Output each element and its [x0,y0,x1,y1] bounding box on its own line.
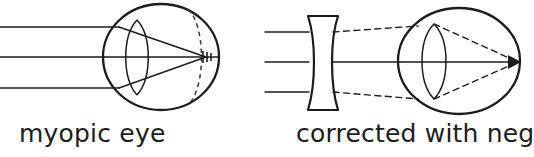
left-refracted-bottom [119,57,206,88]
left-refracted-top [119,27,206,57]
diverged-ray-bottom [333,92,418,99]
caption-corrected-eye: corrected with neg [296,121,534,146]
negative-lens [308,16,338,110]
diverged-ray-top [333,26,418,32]
caption-myopic-eye: myopic eye [19,121,166,146]
left-refracted-rays [104,27,219,88]
right-panel-corrected-eye [265,8,521,114]
right-eyeball-outline [398,8,520,114]
left-incoming-rays [0,27,119,88]
right-refracted-bottom [434,62,518,99]
right-incoming-rays [265,32,309,92]
left-panel-myopic-eye [0,4,219,110]
